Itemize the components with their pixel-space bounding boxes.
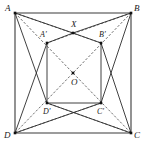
point-Cp-dot bbox=[100, 102, 103, 105]
point-C-dot bbox=[130, 132, 133, 135]
point-X-dot bbox=[72, 32, 75, 35]
point-B-dot bbox=[130, 12, 133, 15]
segment-B-Cp bbox=[101, 13, 131, 103]
segment-C-Bp bbox=[101, 43, 131, 133]
point-A-dot bbox=[14, 12, 17, 15]
segment-A-Dp bbox=[15, 13, 47, 103]
point-Bp-dot bbox=[100, 42, 103, 45]
segment-X-Bp bbox=[73, 33, 101, 43]
point-D-dot bbox=[14, 132, 17, 135]
geometry-canvas: ABCDXA'B'OD'C' bbox=[0, 0, 145, 150]
label-O: O bbox=[71, 77, 78, 87]
label-Bp: B' bbox=[99, 30, 106, 39]
label-C: C bbox=[134, 130, 141, 140]
geometry-figure: ABCDXA'B'OD'C' bbox=[0, 0, 145, 150]
point-Ap-dot bbox=[46, 42, 49, 45]
segment-D-Ap bbox=[15, 43, 47, 133]
label-Ap: A' bbox=[39, 30, 47, 39]
label-D: D bbox=[3, 130, 11, 140]
label-Cp: C' bbox=[97, 107, 104, 116]
label-Dp: D' bbox=[42, 107, 51, 116]
label-A: A bbox=[4, 3, 11, 13]
segment-Ap-X bbox=[47, 33, 73, 43]
label-X: X bbox=[70, 19, 77, 29]
point-Dp-dot bbox=[46, 102, 49, 105]
label-B: B bbox=[134, 3, 140, 13]
point-O-dot bbox=[72, 72, 75, 75]
